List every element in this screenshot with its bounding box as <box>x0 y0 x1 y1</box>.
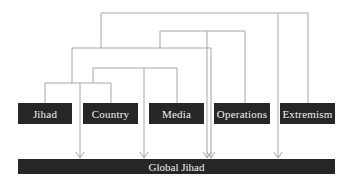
node-label: Media <box>162 108 191 120</box>
connector-group-media <box>93 68 177 103</box>
diagram: Jihad Country Media Operations Extremism… <box>0 0 350 181</box>
node-label: Operations <box>217 108 267 120</box>
connector-lines <box>0 0 350 181</box>
node-label: Jihad <box>33 108 57 120</box>
node-label: Extremism <box>282 108 332 120</box>
node-country: Country <box>83 103 138 124</box>
connector-jihad-country <box>45 83 111 103</box>
node-label: Country <box>92 108 129 120</box>
node-operations: Operations <box>214 103 270 124</box>
node-global-jihad: Global Jihad <box>18 159 335 174</box>
connector-operations <box>160 31 245 103</box>
connector-extremism <box>101 13 308 103</box>
target-label: Global Jihad <box>149 161 205 173</box>
node-media: Media <box>149 103 204 124</box>
node-extremism: Extremism <box>280 103 335 124</box>
node-jihad: Jihad <box>18 103 72 124</box>
